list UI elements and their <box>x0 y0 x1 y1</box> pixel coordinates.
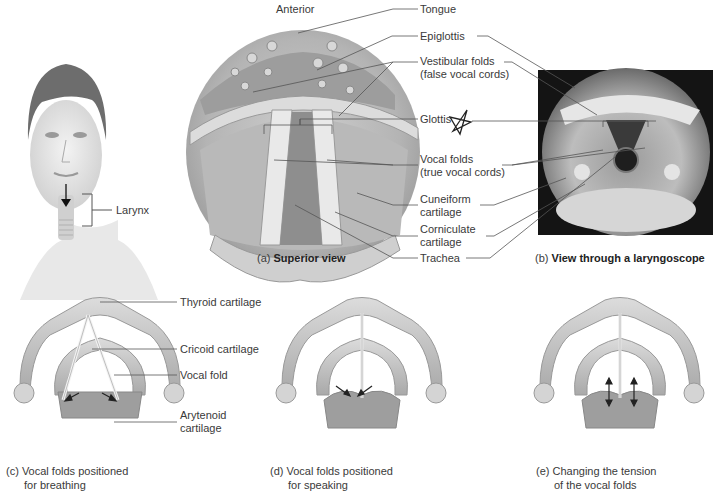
caption-e-prefix: (e) <box>536 465 549 477</box>
caption-e-line1: Changing the tension <box>553 465 657 477</box>
caption-d: (d) Vocal folds positioned for speaking <box>270 464 393 492</box>
label-vocal-fold: Vocal fold <box>180 369 228 382</box>
cartilage-diagram-d <box>276 298 446 429</box>
caption-c-prefix: (c) <box>6 465 19 477</box>
label-vestibular-folds-line2: (false vocal cords) <box>420 68 509 81</box>
star-annotation-icon <box>450 110 471 134</box>
label-vocal-folds-line1: Vocal folds <box>420 153 505 166</box>
label-thyroid-cartilage: Thyroid cartilage <box>180 296 261 309</box>
label-corniculate-line1: Corniculate <box>420 223 476 236</box>
face-illustration <box>20 64 158 300</box>
label-epiglottis: Epiglottis <box>420 30 465 43</box>
label-arytenoid-line2: cartilage <box>180 422 226 435</box>
caption-d-line1: Vocal folds positioned <box>287 465 393 477</box>
label-cuneiform-cartilage: Cuneiform cartilage <box>420 193 471 219</box>
label-glottis: Glottis <box>420 113 451 126</box>
caption-c-line2: for breathing <box>6 478 128 492</box>
label-trachea: Trachea <box>420 252 460 265</box>
caption-d-prefix: (d) <box>270 465 283 477</box>
cartilage-diagram-c <box>14 298 184 419</box>
anterior-label: Anterior <box>276 3 315 16</box>
caption-c-line1: Vocal folds positioned <box>22 465 128 477</box>
label-vocal-folds: Vocal folds (true vocal cords) <box>420 153 505 179</box>
figure-illustration <box>0 0 713 499</box>
cartilage-diagram-e <box>534 298 704 429</box>
label-tongue: Tongue <box>420 3 456 16</box>
caption-b-title: View through a laryngoscope <box>552 252 705 264</box>
label-arytenoid-cartilage: Arytenoid cartilage <box>180 409 226 435</box>
label-cuneiform-line2: cartilage <box>420 206 471 219</box>
label-corniculate-line2: cartilage <box>420 236 476 249</box>
laryngoscope-photo <box>538 68 713 236</box>
label-cuneiform-line1: Cuneiform <box>420 193 471 206</box>
label-cricoid-cartilage: Cricoid cartilage <box>180 343 259 356</box>
caption-c: (c) Vocal folds positioned for breathing <box>6 464 128 492</box>
label-vestibular-folds: Vestibular folds (false vocal cords) <box>420 55 509 81</box>
caption-a: (a) Superior view <box>257 251 346 265</box>
caption-b-prefix: (b) <box>535 252 548 264</box>
caption-a-prefix: (a) <box>257 252 270 264</box>
caption-e-line2: of the vocal folds <box>536 478 656 492</box>
label-vestibular-folds-line1: Vestibular folds <box>420 55 509 68</box>
label-vocal-folds-line2: (true vocal cords) <box>420 166 505 179</box>
larynx-label: Larynx <box>116 204 149 217</box>
label-arytenoid-line1: Arytenoid <box>180 409 226 422</box>
caption-e: (e) Changing the tension of the vocal fo… <box>536 464 656 492</box>
caption-a-title: Superior view <box>274 252 346 264</box>
caption-b: (b) View through a laryngoscope <box>535 251 705 265</box>
label-corniculate-cartilage: Corniculate cartilage <box>420 223 476 249</box>
caption-d-line2: for speaking <box>270 478 393 492</box>
superior-view-illustration <box>186 30 420 282</box>
